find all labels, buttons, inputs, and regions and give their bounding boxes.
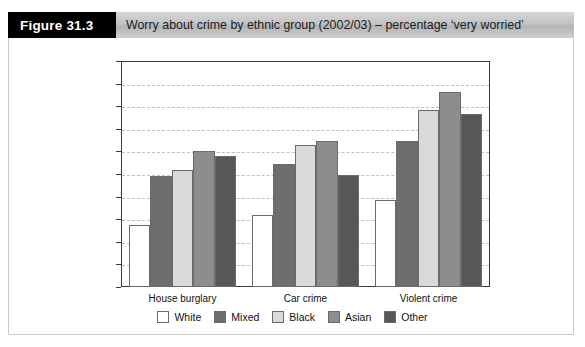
bar-asian-car-crime <box>316 141 338 287</box>
legend-swatch-mixed <box>214 311 226 323</box>
y-axis-tick-mark <box>116 287 121 288</box>
x-axis-label-house-burglary: House burglary <box>149 293 217 304</box>
legend-item-asian: Asian <box>328 311 371 323</box>
legend-swatch-black <box>272 311 284 323</box>
x-axis-label-violent-crime: Violent crime <box>400 293 458 304</box>
legend-item-other: Other <box>384 311 427 323</box>
legend-swatch-asian <box>328 311 340 323</box>
bar-black-violent-crime <box>418 110 440 287</box>
bar-black-car-crime <box>295 145 317 287</box>
bar-other-house-burglary <box>215 156 237 287</box>
figure-container: Figure 31.3 Worry about crime by ethnic … <box>0 0 585 347</box>
bar-black-house-burglary <box>172 170 194 287</box>
bar-mixed-car-crime <box>273 164 295 287</box>
bar-white-violent-crime <box>375 200 397 287</box>
bars-layer <box>121 61 490 287</box>
legend-swatch-white <box>157 311 169 323</box>
bar-other-car-crime <box>338 175 360 287</box>
bar-asian-house-burglary <box>193 151 215 287</box>
legend-label-mixed: Mixed <box>231 311 259 323</box>
legend-label-other: Other <box>401 311 427 323</box>
bar-white-car-crime <box>252 215 274 287</box>
x-axis-label-car-crime: Car crime <box>284 293 327 304</box>
legend-item-black: Black <box>272 311 315 323</box>
legend-label-asian: Asian <box>345 311 371 323</box>
chart-plot: 05101520253035404550 House burglaryCar c… <box>0 0 585 347</box>
bar-mixed-house-burglary <box>150 176 172 287</box>
legend-item-mixed: Mixed <box>214 311 259 323</box>
bar-other-violent-crime <box>461 114 483 287</box>
legend-label-white: White <box>174 311 201 323</box>
chart-legend: WhiteMixedBlackAsianOther <box>0 311 585 323</box>
bar-mixed-violent-crime <box>396 141 418 287</box>
legend-label-black: Black <box>289 311 315 323</box>
legend-swatch-other <box>384 311 396 323</box>
legend-item-white: White <box>157 311 201 323</box>
bar-asian-violent-crime <box>439 92 461 287</box>
bar-white-house-burglary <box>129 225 151 287</box>
